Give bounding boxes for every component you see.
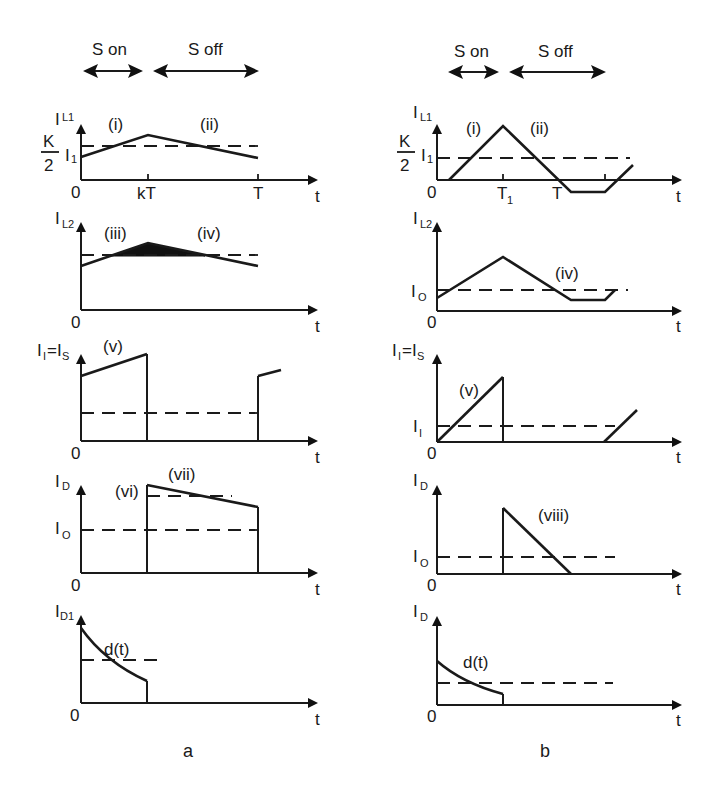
region-label: (v) [103,337,123,356]
svg-text:t: t [315,317,320,336]
region-label: (viii) [538,506,569,525]
y-axis-label: I [413,209,418,228]
region-label: d(t) [104,640,130,659]
s-off-double-arrow-icon [509,65,606,79]
svg-text:0: 0 [427,183,436,202]
region-label: (v) [459,381,479,400]
svg-text:0: 0 [71,183,80,202]
plot-a-input-current: I I =I S (v) 0 t [37,337,320,467]
svg-text:D: D [62,480,70,492]
svg-text:S: S [417,350,424,362]
svg-text:I: I [413,417,418,436]
svg-text:t: t [315,580,320,599]
svg-text:K: K [399,132,411,151]
svg-text:I: I [419,427,422,439]
svg-text:O: O [418,291,427,303]
svg-text:D1: D1 [60,610,74,622]
plot-a-diode1-current: I D1 d(t) 0 t [55,602,320,729]
svg-text:0: 0 [71,576,80,595]
plot-b-il2: I L2 (iv) I O 0 t [411,209,681,336]
y-axis-label: I [37,341,42,360]
svg-text:L1: L1 [420,111,432,123]
svg-text:L2: L2 [420,218,432,230]
plot-b-il1: I L1 (i) (ii) K 2 I 1 0 T 1 T t [397,103,681,206]
plot-b-input-current: I I =I S (v) I I 0 t [392,341,681,467]
caption-a: a [183,741,194,761]
svg-text:t: t [315,710,320,729]
svg-text:0: 0 [427,576,436,595]
region-label: (i) [466,119,481,138]
svg-text:D: D [420,480,428,492]
svg-text:2: 2 [400,156,409,175]
svg-text:I: I [398,350,401,362]
svg-text:0: 0 [71,313,80,332]
svg-text:t: t [315,187,320,206]
svg-text:I: I [43,350,46,362]
s-off-label-a: S off [188,40,223,59]
s-off-label-b: S off [538,42,573,61]
svg-text:t: t [676,187,681,206]
s-on-double-arrow-icon [448,65,499,79]
y-axis-label: I [413,602,418,621]
svg-text:O: O [62,529,71,541]
y-axis-label: I [55,110,60,129]
s-off-double-arrow-icon [153,64,259,78]
svg-text:t: t [315,448,320,467]
svg-text:L1: L1 [62,111,74,123]
switch-state-header-b: S on S off [448,42,606,79]
region-label: (ii) [200,115,219,134]
y-axis-label: I [413,103,418,122]
svg-text:I: I [55,519,60,538]
svg-text:I: I [65,146,70,165]
s-on-label-b: S on [454,42,489,61]
region-label: (iii) [104,224,127,243]
svg-text:t: t [676,580,681,599]
svg-text:I: I [421,146,426,165]
plot-b-diode-current: I D (viii) I O 0 t [413,471,681,599]
y-axis-label: I [55,472,60,491]
svg-text:2: 2 [44,156,53,175]
caption-b: b [540,741,550,761]
svg-text:T: T [253,184,263,203]
y-axis-label: I [55,209,60,228]
svg-text:1: 1 [71,153,77,165]
y-axis-label: I [392,341,397,360]
y-axis-label: I [413,471,418,490]
svg-text:0: 0 [427,707,436,726]
svg-text:T: T [497,184,507,203]
svg-text:1: 1 [507,194,513,206]
region-label: (ii) [530,119,549,138]
svg-text:t: t [676,711,681,730]
svg-text:t: t [676,317,681,336]
region-label: (iv) [555,264,579,283]
svg-text:t: t [676,448,681,467]
svg-text:0: 0 [70,706,79,725]
region-label: (vi) [115,482,139,501]
plot-a-il2: I L2 (iii) (iv) 0 t [55,209,320,336]
svg-text:S: S [62,350,69,362]
svg-text:T: T [552,184,562,203]
svg-text:0: 0 [427,313,436,332]
svg-text:0: 0 [71,444,80,463]
plot-b-diode-current-2: I D d(t) 0 t [413,602,681,730]
converter-waveform-diagram: S on S off S on S off [0,0,713,787]
svg-text:O: O [420,557,429,569]
region-label: d(t) [463,653,489,672]
svg-text:=I: =I [402,341,417,360]
svg-text:1: 1 [427,153,433,165]
svg-text:=I: =I [47,341,62,360]
svg-text:I: I [411,282,416,301]
s-on-double-arrow-icon [83,64,143,78]
svg-text:0: 0 [427,444,436,463]
region-label: (i) [108,115,123,134]
svg-text:kT: kT [137,184,156,203]
switch-state-header-a: S on S off [83,40,259,78]
svg-text:D: D [420,611,428,623]
svg-text:L2: L2 [62,218,74,230]
plot-a-diode-current: I D (vi) (vii) I O 0 t [55,465,320,599]
s-on-label-a: S on [92,40,127,59]
region-label: (vii) [168,465,195,484]
region-label: (iv) [197,224,221,243]
plot-a-il1: I L1 (i) (ii) K 2 I 1 0 kT T t [41,110,320,206]
svg-text:K: K [43,132,55,151]
